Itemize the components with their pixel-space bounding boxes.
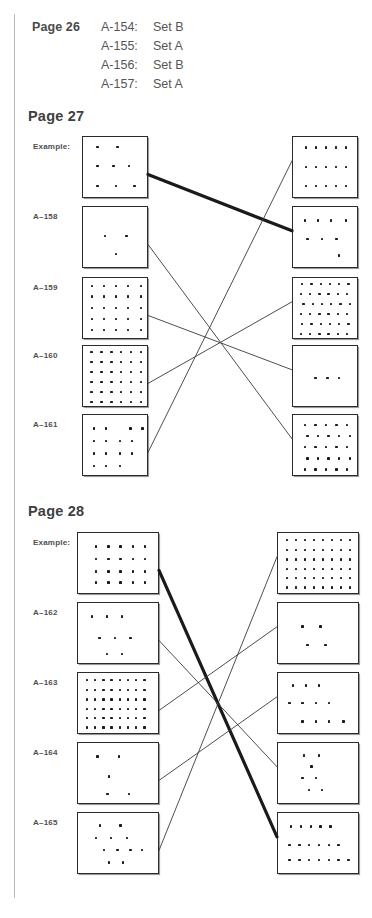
- answer-key-value: Set B: [153, 58, 184, 72]
- dot-box-right[interactable]: [292, 277, 358, 339]
- dot-box-right[interactable]: [292, 345, 358, 407]
- dot: [116, 146, 118, 148]
- dot: [331, 558, 333, 560]
- answer-key-value: Set B: [153, 20, 184, 34]
- dot: [140, 285, 142, 287]
- dot: [99, 824, 101, 826]
- dot: [325, 446, 327, 448]
- dot: [140, 391, 142, 393]
- dot: [103, 849, 105, 851]
- dot: [110, 708, 112, 710]
- dot: [328, 859, 330, 861]
- dot: [310, 283, 312, 285]
- dot: [140, 401, 142, 403]
- dot: [130, 381, 132, 383]
- dot-box-right[interactable]: [277, 742, 359, 804]
- dot: [306, 238, 308, 240]
- dot-box-left[interactable]: [82, 414, 148, 476]
- dot: [91, 307, 93, 309]
- dot-box-right[interactable]: [277, 812, 359, 874]
- dot: [345, 166, 347, 168]
- dot: [325, 424, 327, 426]
- dot: [116, 849, 118, 851]
- dot: [338, 283, 340, 285]
- connector-line: [159, 557, 277, 851]
- dot: [306, 644, 308, 646]
- dot: [108, 861, 110, 863]
- dot: [317, 457, 319, 459]
- dot: [100, 381, 102, 383]
- dot: [119, 708, 121, 710]
- dot: [304, 446, 306, 448]
- dot: [300, 333, 302, 335]
- dot: [110, 351, 112, 353]
- dot: [127, 307, 129, 309]
- dot: [86, 679, 88, 681]
- dot: [337, 844, 339, 846]
- connector-line: [148, 315, 292, 369]
- dot: [132, 558, 134, 560]
- dot: [127, 717, 129, 719]
- dot-box-right[interactable]: [292, 136, 358, 198]
- dot-box-left[interactable]: [82, 345, 148, 407]
- dot: [349, 549, 351, 551]
- dot: [105, 427, 107, 429]
- dot-box-left[interactable]: [77, 812, 159, 874]
- dot: [335, 238, 337, 240]
- dot: [143, 717, 145, 719]
- dot: [349, 457, 351, 459]
- dot: [313, 577, 315, 579]
- dot: [331, 586, 333, 588]
- dot: [328, 702, 330, 704]
- dot: [300, 825, 302, 827]
- dot: [115, 253, 117, 255]
- dot: [133, 185, 135, 187]
- dot: [313, 549, 315, 551]
- dot: [310, 323, 312, 325]
- dot: [327, 457, 329, 459]
- dot-box-right[interactable]: [292, 414, 358, 476]
- dot: [129, 849, 131, 851]
- dot: [337, 333, 339, 335]
- dot-box-left[interactable]: [77, 672, 159, 734]
- dot-box-right[interactable]: [277, 602, 359, 664]
- dot: [340, 577, 342, 579]
- dot: [119, 465, 121, 467]
- dot: [330, 303, 332, 305]
- dot-box-left[interactable]: [82, 277, 148, 339]
- answer-key-row: A-156: Set B: [32, 58, 332, 77]
- dot: [321, 238, 323, 240]
- dot-box-right[interactable]: [277, 672, 359, 734]
- dot: [90, 351, 92, 353]
- dot: [103, 307, 105, 309]
- answer-key-row: A-157: Set A: [32, 77, 332, 96]
- answer-key-code: A-155:: [101, 39, 153, 53]
- dot: [300, 313, 302, 315]
- dot-box-right[interactable]: [292, 206, 358, 268]
- dot-box-left[interactable]: [77, 532, 159, 594]
- dot: [103, 295, 105, 297]
- dot: [108, 775, 110, 777]
- dot: [118, 755, 120, 757]
- dot: [98, 637, 100, 639]
- dot-box-left[interactable]: [82, 136, 148, 198]
- dot: [115, 329, 117, 331]
- dot-box-left[interactable]: [77, 602, 159, 664]
- dot: [304, 549, 306, 551]
- dot-box-right[interactable]: [277, 532, 359, 594]
- dot-box-left[interactable]: [77, 742, 159, 804]
- row-label: A–161: [33, 420, 58, 429]
- dot: [129, 427, 131, 429]
- dot: [110, 698, 112, 700]
- dot-box-left[interactable]: [82, 206, 148, 268]
- dot: [100, 401, 102, 403]
- dot: [127, 726, 129, 728]
- dot: [340, 539, 342, 541]
- dot: [110, 726, 112, 728]
- dot: [349, 577, 351, 579]
- dot: [315, 146, 317, 148]
- dot: [349, 586, 351, 588]
- dot: [110, 361, 112, 363]
- row-label: A–160: [33, 351, 58, 360]
- dot: [94, 726, 96, 728]
